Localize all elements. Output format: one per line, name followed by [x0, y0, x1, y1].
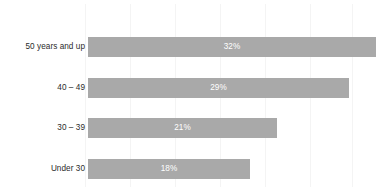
- bar[interactable]: 18%: [88, 159, 250, 179]
- bar[interactable]: 32%: [88, 37, 376, 57]
- bar-value-label: 21%: [88, 118, 277, 138]
- category-label: 50 years and up: [26, 37, 85, 57]
- bar-row: 30 – 39 21%: [0, 118, 384, 138]
- bar-row: 50 years and up 32%: [0, 37, 384, 57]
- category-label: Under 30: [51, 159, 85, 179]
- bar-chart: 50 years and up 32% 40 – 49 29% 30 – 39 …: [0, 0, 384, 195]
- bar-value-label: 32%: [88, 37, 376, 57]
- bar-value-label: 18%: [88, 159, 250, 179]
- bar-row: Under 30 18%: [0, 159, 384, 179]
- category-label: 30 – 39: [57, 118, 85, 138]
- bar-row: 40 – 49 29%: [0, 78, 384, 98]
- bar[interactable]: 29%: [88, 78, 349, 98]
- bar-value-label: 29%: [88, 78, 349, 98]
- plot-area: 50 years and up 32% 40 – 49 29% 30 – 39 …: [0, 0, 384, 195]
- bar[interactable]: 21%: [88, 118, 277, 138]
- category-label: 40 – 49: [57, 78, 85, 98]
